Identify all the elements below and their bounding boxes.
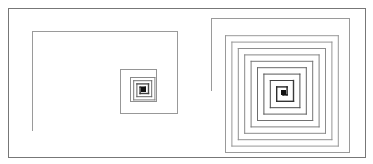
spiral-core xyxy=(281,90,286,95)
outer-frame xyxy=(9,9,366,158)
left-spiral xyxy=(33,32,178,131)
spiral-figure xyxy=(0,0,373,164)
right-spiral xyxy=(212,19,350,153)
spiral-core xyxy=(141,87,146,92)
